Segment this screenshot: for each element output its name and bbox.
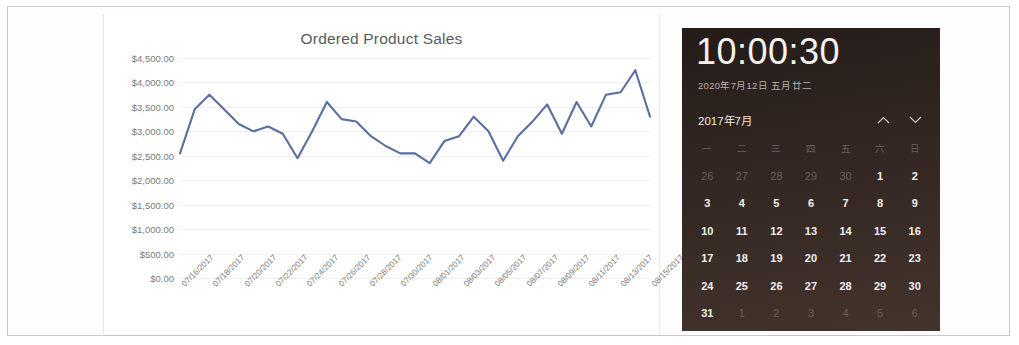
calendar-day-cell[interactable]: 30 bbox=[897, 280, 932, 292]
calendar-day-cell[interactable]: 20 bbox=[794, 252, 829, 264]
calendar-day-cell[interactable]: 18 bbox=[725, 252, 760, 264]
calendar-next-month-button[interactable] bbox=[904, 112, 926, 130]
calendar-prev-month-button[interactable] bbox=[872, 112, 894, 130]
y-axis-tick: $0.00 bbox=[150, 273, 174, 284]
y-axis-tick-labels: $0.00$500.00$1,000.00$1,500.00$2,000.00$… bbox=[104, 58, 178, 278]
chart-plot-wrapper: $0.00$500.00$1,000.00$1,500.00$2,000.00$… bbox=[104, 58, 661, 334]
y-axis-tick: $4,500.00 bbox=[132, 53, 174, 64]
calendar-weekday: 日 bbox=[897, 140, 932, 158]
chevron-down-icon bbox=[909, 116, 922, 124]
calendar-weekday: 五 bbox=[828, 140, 863, 158]
calendar-day-cell[interactable]: 13 bbox=[794, 225, 829, 237]
calendar-day-cell[interactable]: 1 bbox=[863, 170, 898, 182]
calendar-day-cell[interactable]: 17 bbox=[690, 252, 725, 264]
calendar-weekday-row: 一二三四五六日 bbox=[690, 140, 932, 158]
calendar-day-cell[interactable]: 21 bbox=[828, 252, 863, 264]
x-axis-tick-labels: 07/16/201707/18/201707/20/201707/22/2017… bbox=[180, 280, 650, 336]
calendar-day-cell[interactable]: 12 bbox=[759, 225, 794, 237]
chevron-up-icon bbox=[877, 116, 890, 124]
calendar-day-cell[interactable]: 6 bbox=[897, 307, 932, 319]
clock-calendar-panel: 10:00:30 2020年7月12日 五月廿二 2017年7月 一二三四五六日… bbox=[682, 28, 940, 331]
calendar-day-grid: 2627282930123456789101112131415161718192… bbox=[690, 162, 932, 327]
chart-title: Ordered Product Sales bbox=[104, 30, 659, 48]
y-axis-tick: $500.00 bbox=[140, 248, 174, 259]
calendar-day-cell[interactable]: 2 bbox=[759, 307, 794, 319]
screenshot-root: Ordered Product Sales $0.00$500.00$1,000… bbox=[0, 0, 1019, 345]
calendar-day-cell[interactable]: 5 bbox=[863, 307, 898, 319]
y-axis-tick: $1,500.00 bbox=[132, 199, 174, 210]
y-axis-tick: $2,500.00 bbox=[132, 150, 174, 161]
calendar-day-cell[interactable]: 25 bbox=[725, 280, 760, 292]
chart-plot-area bbox=[180, 58, 650, 278]
calendar-day-cell[interactable]: 23 bbox=[897, 252, 932, 264]
calendar-weekday: 六 bbox=[863, 140, 898, 158]
calendar-day-cell[interactable]: 8 bbox=[863, 197, 898, 209]
calendar-day-cell[interactable]: 27 bbox=[725, 170, 760, 182]
calendar-day-cell[interactable]: 29 bbox=[794, 170, 829, 182]
calendar-weekday: 四 bbox=[794, 140, 829, 158]
calendar-day-cell[interactable]: 31 bbox=[690, 307, 725, 319]
calendar-weekday: 二 bbox=[725, 140, 760, 158]
clock-date: 2020年7月12日 五月廿二 bbox=[698, 78, 812, 92]
calendar-day-cell[interactable]: 1 bbox=[725, 307, 760, 319]
y-axis-tick: $3,000.00 bbox=[132, 126, 174, 137]
calendar-day-cell[interactable]: 19 bbox=[759, 252, 794, 264]
calendar-day-cell[interactable]: 27 bbox=[794, 280, 829, 292]
calendar-day-cell[interactable]: 7 bbox=[828, 197, 863, 209]
calendar-day-cell[interactable]: 9 bbox=[897, 197, 932, 209]
calendar-weekday: 三 bbox=[759, 140, 794, 158]
clock-time: 10:00:30 bbox=[696, 34, 840, 70]
calendar-day-cell[interactable]: 14 bbox=[828, 225, 863, 237]
calendar-day-cell[interactable]: 28 bbox=[828, 280, 863, 292]
calendar-day-cell[interactable]: 4 bbox=[725, 197, 760, 209]
calendar-day-cell[interactable]: 22 bbox=[863, 252, 898, 264]
ordered-product-sales-chart-card: Ordered Product Sales $0.00$500.00$1,000… bbox=[103, 14, 660, 334]
calendar-day-cell[interactable]: 6 bbox=[794, 197, 829, 209]
y-axis-tick: $1,000.00 bbox=[132, 224, 174, 235]
y-axis-tick: $4,000.00 bbox=[132, 77, 174, 88]
calendar-header: 2017年7月 bbox=[682, 112, 940, 134]
calendar-day-cell[interactable]: 15 bbox=[863, 225, 898, 237]
calendar-day-cell[interactable]: 11 bbox=[725, 225, 760, 237]
calendar-day-cell[interactable]: 2 bbox=[897, 170, 932, 182]
calendar-day-cell[interactable]: 26 bbox=[690, 170, 725, 182]
calendar-day-cell[interactable]: 30 bbox=[828, 170, 863, 182]
sales-line-series bbox=[180, 58, 650, 278]
calendar-day-cell[interactable]: 24 bbox=[690, 280, 725, 292]
calendar-weekday: 一 bbox=[690, 140, 725, 158]
calendar-day-cell[interactable]: 10 bbox=[690, 225, 725, 237]
calendar-day-cell[interactable]: 16 bbox=[897, 225, 932, 237]
calendar-day-cell[interactable]: 26 bbox=[759, 280, 794, 292]
calendar-day-cell[interactable]: 3 bbox=[794, 307, 829, 319]
calendar-day-cell[interactable]: 4 bbox=[828, 307, 863, 319]
calendar-month-label: 2017年7月 bbox=[698, 112, 752, 128]
y-axis-tick: $2,000.00 bbox=[132, 175, 174, 186]
calendar-day-cell[interactable]: 5 bbox=[759, 197, 794, 209]
calendar-day-cell[interactable]: 28 bbox=[759, 170, 794, 182]
calendar-day-cell[interactable]: 29 bbox=[863, 280, 898, 292]
calendar-day-cell[interactable]: 3 bbox=[690, 197, 725, 209]
y-axis-tick: $3,500.00 bbox=[132, 101, 174, 112]
